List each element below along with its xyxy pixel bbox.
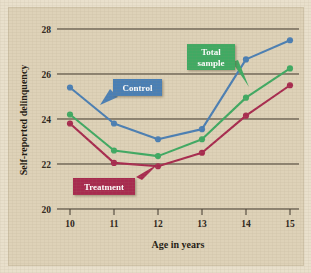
x-tick-label-12: 12 xyxy=(153,219,163,229)
data-point xyxy=(199,150,205,156)
series-line-treatment xyxy=(70,85,290,166)
treatment-callout-label: Treatment xyxy=(84,182,124,192)
series-line-total-sample xyxy=(70,68,290,156)
control-callout-label: Control xyxy=(123,83,153,93)
x-tick-label-14: 14 xyxy=(241,219,251,229)
data-point xyxy=(287,37,293,43)
y-axis-title: Self-reported delinquency xyxy=(18,65,29,176)
data-point xyxy=(199,126,205,132)
series-markers xyxy=(67,37,293,169)
y-axis-ticks: 28 26 24 22 20 xyxy=(42,25,52,215)
y-tick-label-20: 20 xyxy=(42,205,52,215)
data-point xyxy=(243,113,249,119)
line-chart: 28 26 24 22 20 10 11 12 13 14 15 Age in … xyxy=(0,0,311,273)
data-point xyxy=(155,163,161,169)
data-point xyxy=(287,82,293,88)
x-axis-ticks: 10 11 12 13 14 15 xyxy=(65,209,295,229)
data-point xyxy=(199,136,205,142)
y-tick-label-24: 24 xyxy=(42,115,52,125)
y-tick-label-22: 22 xyxy=(42,160,52,170)
x-tick-label-13: 13 xyxy=(197,219,207,229)
total-sample-callout-label-line1: Total xyxy=(201,47,221,57)
data-point xyxy=(111,120,117,126)
data-point xyxy=(155,136,161,142)
data-point xyxy=(243,95,249,101)
total-sample-callout-label-line2: sample xyxy=(198,58,225,68)
data-point xyxy=(67,111,73,117)
chart-figure: 28 26 24 22 20 10 11 12 13 14 15 Age in … xyxy=(0,0,311,273)
x-tick-label-11: 11 xyxy=(110,219,119,229)
data-point xyxy=(67,120,73,126)
data-point xyxy=(111,147,117,153)
data-point xyxy=(155,153,161,159)
x-tick-label-10: 10 xyxy=(65,219,75,229)
y-tick-label-26: 26 xyxy=(42,70,52,80)
x-tick-label-15: 15 xyxy=(285,219,295,229)
data-point xyxy=(243,56,249,62)
callout-control[interactable]: Control xyxy=(113,79,162,96)
y-tick-label-28: 28 xyxy=(42,25,52,35)
x-axis-title: Age in years xyxy=(152,239,205,250)
data-point xyxy=(111,160,117,166)
callout-total-sample[interactable]: Total sample xyxy=(187,44,235,70)
callout-treatment[interactable]: Treatment xyxy=(73,178,135,195)
data-point xyxy=(287,65,293,71)
data-point xyxy=(67,84,73,90)
